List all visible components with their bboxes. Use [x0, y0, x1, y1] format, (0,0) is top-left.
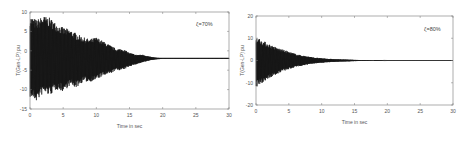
- x-axis-label: Time in sec: [342, 119, 368, 125]
- y-tick-label: 0: [250, 57, 253, 63]
- chart-zeta-70: 0510152025301050-5-10-15Time in secT(Gen…: [15, 9, 232, 129]
- x-tick-label: 20: [385, 108, 391, 114]
- figure: 0510152025301050-5-10-15Time in secT(Gen…: [0, 0, 471, 141]
- x-tick-label: 30: [450, 108, 456, 114]
- x-tick-label: 0: [255, 108, 258, 114]
- y-tick-label: -10: [20, 86, 27, 92]
- y-tick-label: -20: [246, 102, 253, 108]
- series-line: [256, 39, 453, 87]
- y-tick-label: 20: [247, 13, 253, 19]
- x-tick-label: 20: [160, 112, 166, 118]
- x-tick-label: 25: [417, 108, 423, 114]
- x-tick-label: 5: [62, 112, 65, 118]
- y-tick-label: -10: [246, 80, 253, 86]
- chart-zeta-80: 05101520253020100-10-20Time in secT(Gen-…: [239, 13, 456, 125]
- damping-annotation: ζ=70%: [196, 21, 213, 28]
- x-tick-label: 0: [29, 112, 32, 118]
- x-axis-label: Time in sec: [117, 123, 143, 129]
- x-tick-label: 10: [94, 112, 100, 118]
- y-tick-label: -5: [23, 67, 28, 73]
- x-tick-label: 5: [287, 108, 290, 114]
- y-tick-label: 10: [21, 9, 27, 15]
- y-axis-label: T(Gen-LP) pu: [15, 45, 21, 76]
- x-tick-label: 25: [193, 112, 199, 118]
- x-tick-label: 15: [127, 112, 133, 118]
- x-tick-label: 10: [319, 108, 325, 114]
- x-tick-label: 15: [352, 108, 358, 114]
- damping-annotation: ζ=80%: [424, 26, 441, 33]
- y-axis-label: T(Gen-LP) pu: [239, 45, 245, 76]
- y-tick-label: 0: [24, 48, 27, 54]
- y-tick-label: 5: [24, 28, 27, 34]
- y-tick-label: -15: [20, 106, 27, 112]
- x-tick-label: 30: [226, 112, 232, 118]
- y-tick-label: 10: [247, 35, 253, 41]
- series-line: [30, 17, 229, 100]
